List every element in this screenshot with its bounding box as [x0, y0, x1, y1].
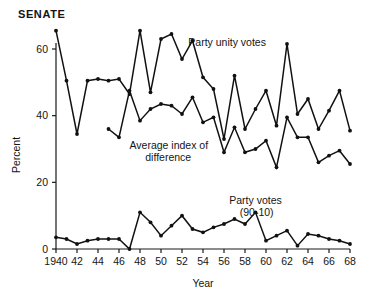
- data-point: [75, 132, 79, 136]
- data-point: [159, 234, 163, 238]
- x-tick-label: 56: [218, 255, 230, 267]
- data-point: [180, 57, 184, 61]
- data-point: [348, 129, 352, 133]
- data-point: [243, 127, 247, 131]
- data-point: [212, 225, 216, 229]
- data-point: [222, 150, 226, 154]
- data-point: [233, 217, 237, 221]
- x-tick-label: 1940: [44, 255, 68, 267]
- x-tick-label: 58: [239, 255, 251, 267]
- data-point: [327, 109, 331, 113]
- data-point: [338, 239, 342, 243]
- data-point: [285, 42, 289, 46]
- data-point: [180, 214, 184, 218]
- data-point: [96, 77, 100, 81]
- senate-line-chart: 0204060Percent19404244464850525456586062…: [0, 0, 367, 296]
- data-point: [65, 237, 69, 241]
- data-point: [296, 244, 300, 248]
- data-point: [170, 224, 174, 228]
- data-point: [222, 137, 226, 141]
- chart-container: SENATE 0204060Percent1940424446485052545…: [0, 0, 367, 296]
- data-point: [222, 222, 226, 226]
- series-2: [107, 89, 352, 169]
- data-point: [149, 90, 153, 94]
- data-point: [65, 79, 69, 83]
- data-point: [348, 242, 352, 246]
- data-point: [275, 234, 279, 238]
- data-point: [149, 107, 153, 111]
- data-point: [96, 237, 100, 241]
- x-tick-label: 68: [344, 255, 356, 267]
- x-tick-label: 54: [197, 255, 209, 267]
- data-point: [128, 89, 132, 93]
- data-point: [117, 77, 121, 81]
- data-point: [201, 120, 205, 124]
- data-point: [86, 239, 90, 243]
- series-annotation: Average index of: [130, 139, 209, 151]
- data-point: [254, 107, 258, 111]
- data-point: [317, 127, 321, 131]
- x-tick-label: 66: [323, 255, 335, 267]
- y-tick-label: 60: [36, 43, 48, 55]
- data-point: [338, 89, 342, 93]
- data-point: [86, 79, 90, 83]
- annotations-group: Party unity votesAverage index ofdiffere…: [130, 36, 282, 218]
- data-point: [275, 165, 279, 169]
- data-point: [254, 147, 258, 151]
- x-tick-label: 64: [302, 255, 314, 267]
- data-point: [296, 135, 300, 139]
- data-point: [107, 237, 111, 241]
- data-point: [159, 37, 163, 41]
- data-point: [201, 75, 205, 79]
- x-tick-label: 52: [176, 255, 188, 267]
- data-point: [212, 87, 216, 91]
- data-point: [128, 247, 132, 251]
- series-annotation: Party votes: [229, 194, 282, 206]
- x-tick-label: 48: [134, 255, 146, 267]
- series-annotation: (90-10): [240, 206, 274, 218]
- data-point: [212, 115, 216, 119]
- data-point: [233, 125, 237, 129]
- data-point: [306, 97, 310, 101]
- x-tick-label: 60: [260, 255, 272, 267]
- data-point: [243, 222, 247, 226]
- data-point: [138, 119, 142, 123]
- x-axis-title: Year: [192, 277, 214, 289]
- data-point: [117, 135, 121, 139]
- data-point: [243, 150, 247, 154]
- data-point: [338, 149, 342, 153]
- x-tick-label: 46: [113, 255, 125, 267]
- data-point: [348, 162, 352, 166]
- data-point: [317, 160, 321, 164]
- x-tick-label: 42: [71, 255, 83, 267]
- x-axis-ticks: 19404244464850525456586062646668: [44, 249, 356, 267]
- series-3: [54, 210, 352, 250]
- data-point: [159, 102, 163, 106]
- data-point: [285, 115, 289, 119]
- data-point: [180, 112, 184, 116]
- data-point: [107, 79, 111, 83]
- data-point: [275, 124, 279, 128]
- data-point: [306, 232, 310, 236]
- data-point: [117, 237, 121, 241]
- series-annotation: difference: [145, 151, 191, 163]
- data-point: [264, 89, 268, 93]
- y-tick-label: 0: [42, 243, 48, 255]
- data-point: [306, 135, 310, 139]
- data-point: [138, 29, 142, 33]
- y-axis-ticks: 0204060: [36, 43, 56, 255]
- data-point: [170, 104, 174, 108]
- data-point: [170, 32, 174, 36]
- data-point: [317, 234, 321, 238]
- data-point: [201, 230, 205, 234]
- data-point: [296, 112, 300, 116]
- y-axis-title: Percent: [10, 137, 22, 173]
- data-point: [75, 242, 79, 246]
- y-tick-label: 40: [36, 109, 48, 121]
- data-point: [54, 29, 58, 33]
- x-tick-label: 44: [92, 255, 104, 267]
- data-point: [233, 74, 237, 78]
- data-point: [264, 239, 268, 243]
- x-tick-label: 62: [281, 255, 293, 267]
- data-point: [149, 220, 153, 224]
